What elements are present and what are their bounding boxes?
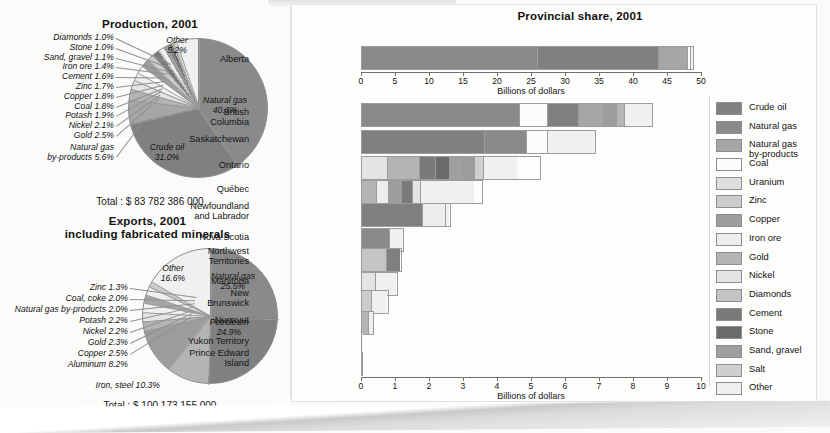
legend-item-zinc[interactable]: Zinc [716,194,812,213]
legend-swatch-gold [716,252,742,265]
bar-segment-natural-gas [485,131,527,153]
province-bar-row: Newfoundlandand Labrador [0,203,710,229]
legend-item-diamonds[interactable]: Diamonds [716,288,812,307]
province-bar-row: Prince EdwardIsland [0,352,710,378]
legend-label: Salt [749,363,765,374]
legend-label: Stone [749,325,774,336]
bar-segment-other [548,131,595,153]
legend-item-copper[interactable]: Copper [716,213,812,232]
legend-label: Iron ore [749,232,781,243]
province-label: Nova Scotia [153,232,249,242]
legend-label: Cement [749,307,782,318]
legend-swatch-other [716,382,742,395]
axis-tick-label: 4 [486,381,508,391]
legend-item-crude-oil[interactable]: Crude oil [716,101,812,120]
commodity-legend: Crude oilNatural gasNatural gasby-produc… [716,101,812,400]
province-stacked-bar [361,352,363,376]
bar-segment-gold [362,181,377,203]
legend-item-stone[interactable]: Stone [716,325,812,344]
province-label: Nunavut [153,315,249,325]
axis-tick-label: 1 [384,381,406,391]
legend-item-cement[interactable]: Cement [716,307,812,326]
legend-label: Other [749,381,772,392]
bar-segment-zinc [362,291,372,313]
bar-segment-coal [520,104,548,126]
province-label: Alberta [153,54,249,64]
axis-tick-label: 5 [520,381,542,391]
production-chart-title: Production, 2001 [60,18,240,30]
pie-label-name: Other [166,35,188,45]
province-bar-row: Alberta [0,46,710,72]
bar-segment-crude-oil [548,104,579,126]
legend-swatch-natural-gas [716,121,742,134]
province-bar-row: NorthwestTerritories [0,248,710,274]
legend-item-iron-ore[interactable]: Iron ore [716,232,812,251]
bar-segment-copper [463,157,475,179]
axis-tick-label: 0 [350,381,372,391]
legend-item-gold[interactable]: Gold [716,251,812,270]
axis-tick-label: 30 [554,76,576,86]
top-axis-scale: 05101520253035404550Billions of dollars [361,72,701,88]
axis-tick-label: 35 [588,76,610,86]
bar-segment-natural-gas [362,104,520,126]
province-label: Saskatchewan [153,134,249,144]
legend-label: Diamonds [749,288,791,299]
province-label: Prince EdwardIsland [153,348,249,368]
bar-segment-natural-gas-byproducts [659,47,688,69]
axis-tick-label: 9 [656,381,678,391]
bar-segment-natural-gas [362,47,538,69]
legend-item-natural-gas[interactable]: Natural gas [716,120,812,139]
legend-label: Sand, gravel [749,344,802,355]
bar-segment-gold [388,157,420,179]
bar-segment-gold [362,312,369,334]
bar-segment-iron-ore [377,181,389,203]
axis-tick-label: 3 [452,381,474,391]
legend-label: Natural gas [749,120,797,131]
legend-swatch-coal [716,158,742,171]
legend-item-sand-gravel[interactable]: Sand, gravel [716,344,812,363]
province-stacked-bar [361,130,596,154]
legend-swatch-natural-gas-byproducts [716,139,742,152]
axis-tick-label: 40 [622,76,644,86]
legend-item-other[interactable]: Other [716,381,812,400]
legend-item-natural-gas-byproducts[interactable]: Natural gasby-products [716,138,812,157]
bottom-axis-scale: 012345678910Billions of dollars [361,377,701,393]
axis-tick-label: 25 [520,76,542,86]
axis-tick-label: 6 [554,381,576,391]
bar-segment-other [372,291,387,313]
province-label: NorthwestTerritories [153,246,249,266]
legend-item-uranium[interactable]: Uranium [716,176,812,195]
legend-label: Crude oil [749,101,787,112]
bar-segment-stone [436,157,450,179]
axis-tick-label: 45 [656,76,678,86]
province-bar-row: BritishColumbia [0,103,710,129]
bar-segment-copper [604,104,617,126]
bar-segment-copper [389,181,402,203]
bar-segment-other [421,181,475,203]
province-label: Ontario [153,160,249,170]
legend-item-coal[interactable]: Coal [716,157,812,176]
bar-segment-natural-gas-byproducts [579,104,604,126]
legend-swatch-cement [716,308,742,321]
legend-swatch-copper [716,214,742,227]
provincial-share-title: Provincial share, 2001 [440,10,720,22]
axis-tick-label: 10 [418,76,440,86]
bar-segment-crude-oil [362,131,485,153]
province-label: NewBrunswick [153,288,249,308]
province-stacked-bar [361,156,541,180]
axis-title: Billions of dollars [361,86,701,96]
bar-segment-nickel [362,157,388,179]
legend-item-salt[interactable]: Salt [716,363,812,382]
axis-tick-label: 15 [452,76,474,86]
axis-tick-label: 8 [622,381,644,391]
legend-label: Zinc [749,194,767,205]
axis-tick-label: 10 [690,381,712,391]
bar-segment-crude-oil [538,47,659,69]
province-stacked-bar [361,46,694,70]
bar-segment-other [369,312,372,334]
province-label: Yukon Territory [153,336,249,346]
legend-label: Coal [749,157,768,168]
pie-callout-label: Copper 1.8% [0,92,114,102]
legend-item-nickel[interactable]: Nickel [716,269,812,288]
